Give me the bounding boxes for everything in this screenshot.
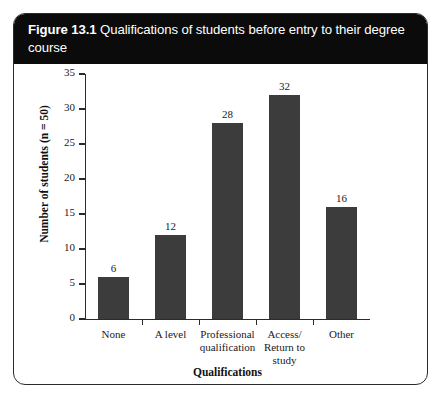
bar	[155, 235, 186, 319]
y-tick-label: 25	[64, 136, 75, 148]
x-tick	[256, 320, 257, 325]
bar-value-label: 28	[199, 108, 256, 120]
y-tick: 5	[79, 283, 85, 284]
x-tick	[313, 320, 314, 325]
x-tick	[199, 320, 200, 325]
y-tick: 0	[79, 318, 85, 319]
y-tick-label: 15	[64, 206, 75, 218]
y-tick: 15	[79, 213, 85, 214]
y-tick-label: 5	[70, 276, 76, 288]
bar-value-label: 16	[313, 192, 370, 204]
y-tick-label: 0	[70, 311, 76, 323]
y-tick-label: 10	[64, 241, 75, 253]
x-category-label: A level	[138, 328, 203, 341]
y-tick-label: 20	[64, 171, 75, 183]
figure-caption-banner: Figure 13.1 Qualifications of students b…	[14, 14, 427, 64]
y-tick-label: 30	[64, 101, 75, 113]
chart-plot-area: 05101520253035 6None12A level28Professio…	[14, 64, 428, 384]
bar	[269, 95, 300, 319]
bar-value-label: 6	[85, 262, 142, 274]
x-category-label: Professional qualification	[195, 328, 260, 354]
x-axis-line	[85, 319, 370, 320]
figure-container: Figure 13.1 Qualifications of students b…	[13, 13, 428, 385]
bar	[98, 277, 129, 319]
x-tick	[142, 320, 143, 325]
y-tick: 20	[79, 178, 85, 179]
bar-value-label: 32	[256, 80, 313, 92]
x-category-label: Access/ Return to study	[252, 328, 317, 367]
bar	[326, 207, 357, 319]
figure-number: Figure 13.1	[28, 22, 97, 37]
y-tick: 10	[79, 248, 85, 249]
bar-value-label: 12	[142, 220, 199, 232]
y-axis-line	[85, 74, 86, 320]
y-tick: 35	[79, 73, 85, 74]
x-category-label: None	[81, 328, 146, 341]
y-tick-label: 35	[64, 66, 75, 78]
y-axis-title: Number of students (n = 50)	[38, 84, 50, 264]
x-axis-title: Qualifications	[85, 366, 370, 378]
bar	[212, 123, 243, 319]
y-tick: 25	[79, 143, 85, 144]
y-tick: 30	[79, 108, 85, 109]
x-category-label: Other	[309, 328, 374, 341]
